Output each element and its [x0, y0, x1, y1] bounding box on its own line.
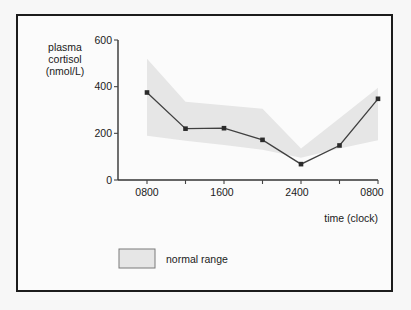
data-point-marker: [145, 90, 150, 95]
y-tick-label-0: 0: [106, 174, 112, 186]
data-point-marker: [337, 143, 342, 148]
y-tick-label-400: 400: [94, 80, 112, 92]
legend-swatch-normal-range: [119, 249, 155, 268]
data-point-marker: [260, 138, 265, 143]
data-point-marker: [183, 126, 188, 131]
x-axis-label: time (clock): [324, 212, 378, 224]
x-tick-label-0800-start: 0800: [135, 186, 159, 198]
y-axis-label-line2: cortisol: [48, 53, 81, 65]
data-point-marker: [376, 97, 381, 102]
y-tick-label-200: 200: [94, 127, 112, 139]
x-tick-label-0800-end: 0800: [360, 186, 384, 198]
data-point-marker: [299, 162, 304, 167]
figure-root: 600 400 200 0 0800 1600 2400 0800 plasma…: [0, 0, 411, 310]
normal-range-band: [147, 59, 378, 158]
x-tick-label-2400: 2400: [285, 186, 309, 198]
x-tick-label-1600: 1600: [210, 186, 234, 198]
data-point-marker: [222, 126, 227, 131]
cortisol-line-chart: 600 400 200 0 0800 1600 2400 0800 plasma…: [0, 0, 411, 310]
y-axis-label-line1: plasma: [48, 41, 82, 53]
y-tick-label-600: 600: [94, 34, 112, 46]
legend-label-normal-range: normal range: [166, 253, 228, 265]
y-axis-label-line3: (nmol/L): [46, 65, 85, 77]
